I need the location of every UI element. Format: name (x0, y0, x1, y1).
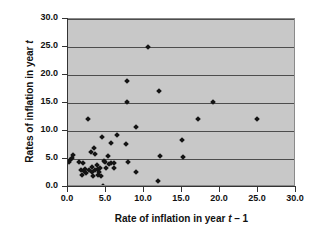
gridline (68, 47, 294, 48)
y-axis-title-variable: t (24, 40, 35, 43)
x-axis-tick-label: 0.0 (47, 194, 87, 203)
data-point (105, 153, 111, 159)
data-point (99, 174, 105, 180)
data-point (70, 152, 76, 158)
x-axis-tick (143, 187, 144, 192)
x-axis-title: Rate of inflation in year t – 1 (67, 213, 296, 224)
x-axis-title-suffix: – 1 (232, 213, 249, 224)
y-axis-title-text: Rates of inflation in year (24, 44, 35, 163)
x-axis-tick (257, 187, 258, 192)
gridline (68, 103, 294, 104)
data-point (145, 44, 151, 50)
data-point (124, 100, 130, 106)
data-point (80, 160, 86, 166)
y-axis-tick (62, 46, 67, 47)
data-point (155, 178, 161, 184)
y-axis-title: Rates of inflation in year t (24, 17, 35, 187)
y-axis-tick-label: 20.0 (12, 69, 58, 78)
x-axis-tick (67, 187, 68, 192)
x-axis-tick (219, 187, 220, 192)
scatter-plot-figure: 0.05.010.015.020.025.030.0 0.05.010.015.… (0, 0, 320, 238)
x-axis-tick-label: 10.0 (123, 194, 163, 203)
y-axis-line (67, 18, 68, 187)
y-axis-tick (62, 158, 67, 159)
data-point (156, 88, 162, 94)
data-point (134, 169, 140, 175)
gridline (68, 19, 294, 20)
y-axis-tick-label: 10.0 (12, 125, 58, 134)
y-axis-tick (62, 18, 67, 19)
data-point (112, 165, 118, 171)
x-axis-tick-label: 5.0 (85, 194, 125, 203)
y-axis-tick-label: 30.0 (12, 13, 58, 22)
data-point (210, 100, 216, 106)
y-axis-tick (62, 74, 67, 75)
y-axis-tick-label: 25.0 (12, 41, 58, 50)
x-axis-title-text: Rate of inflation in year (115, 213, 228, 224)
x-axis-tick-label: 25.0 (237, 194, 277, 203)
data-point (85, 116, 91, 122)
gridline (68, 131, 294, 132)
data-point (133, 124, 139, 130)
data-point (92, 151, 98, 157)
x-axis-tick-label: 15.0 (161, 194, 201, 203)
plot-area (67, 18, 295, 186)
data-point (123, 141, 129, 147)
data-point (114, 132, 120, 138)
data-point (195, 116, 201, 122)
data-point (124, 78, 130, 84)
x-axis-tick (295, 187, 296, 192)
gridline (68, 75, 294, 76)
x-axis-tick-label: 20.0 (199, 194, 239, 203)
x-axis-tick (105, 187, 106, 192)
y-axis-tick (62, 102, 67, 103)
data-point (108, 140, 114, 146)
x-axis-tick (181, 187, 182, 192)
x-axis-tick-label: 30.0 (275, 194, 315, 203)
y-axis-tick (62, 130, 67, 131)
y-axis-tick-label: 5.0 (12, 153, 58, 162)
data-point (254, 116, 260, 122)
data-point (179, 137, 185, 143)
y-axis-tick-label: 15.0 (12, 97, 58, 106)
y-axis-tick-label: 0.0 (12, 181, 58, 190)
data-point (99, 134, 105, 140)
